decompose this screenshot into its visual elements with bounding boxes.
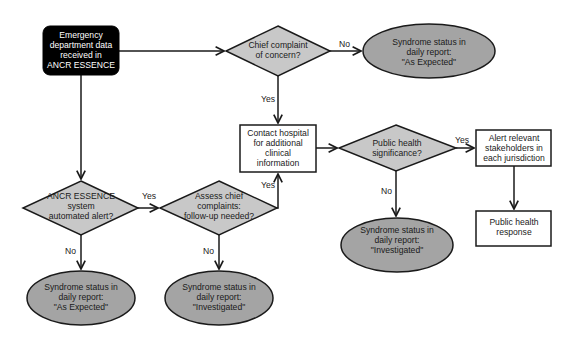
node-chief-complaint-line-1: Chief complaint <box>248 40 308 50</box>
node-contact-hospital-line-2: for additional <box>253 138 302 148</box>
node-contact-hospital-line-3: clinical <box>265 148 291 158</box>
node-start-line-3: received in <box>60 50 102 60</box>
node-status-investigated-right-line-3: "Investigated" <box>371 245 423 255</box>
node-status-expected-top-line-1: Syndrome status in <box>392 37 466 47</box>
node-assess-complaints-line-3: follow-up needed? <box>184 211 254 221</box>
edge-label-chief-no: No <box>339 39 350 49</box>
node-assess-complaints-line-1: Assess chief <box>195 191 244 201</box>
node-contact-hospital-line-1: Contact hospital <box>247 128 309 138</box>
node-alert-stakeholders-line-3: each jurisdiction <box>483 153 545 163</box>
edge-label-chief-yes: Yes <box>261 94 275 104</box>
node-start: Emergency department data received in AN… <box>43 26 119 75</box>
node-status-investigated-right: Syndrome status in daily report: "Invest… <box>341 218 453 272</box>
node-public-health-response: Public health response <box>476 211 551 246</box>
node-alert-stakeholders-line-2: stakeholders in <box>485 143 543 153</box>
edge-label-assess-no: No <box>203 246 214 256</box>
node-contact-hospital-line-4: information <box>257 158 300 168</box>
edge-label-assess-yes: Yes <box>261 180 275 190</box>
node-status-investigated-bottom-line-1: Syndrome status in <box>182 282 256 292</box>
node-status-expected-bottom-line-2: daily report: <box>59 292 104 302</box>
node-assess-complaints-line-2: complaints: <box>197 201 240 211</box>
node-contact-hospital: Contact hospital for additional clinical… <box>240 125 316 172</box>
node-status-expected-bottom: Syndrome status in daily report: "As Exp… <box>27 271 135 325</box>
node-status-expected-bottom-line-1: Syndrome status in <box>44 282 118 292</box>
edge-label-alert-no: No <box>65 246 76 256</box>
node-status-investigated-bottom-line-2: daily report: <box>197 292 242 302</box>
surveillance-flowchart: No Yes Yes No Yes No Yes No Emergency de… <box>0 0 573 343</box>
node-status-investigated-right-line-2: daily report: <box>375 235 420 245</box>
node-automated-alert-line-2: system <box>67 201 94 211</box>
node-public-health-response-line-2: response <box>496 227 532 237</box>
node-status-expected-top-line-2: daily report: <box>407 47 452 57</box>
node-automated-alert-line-3: automated alert? <box>49 211 114 221</box>
edge-label-alert-yes: Yes <box>142 191 156 201</box>
node-status-investigated-right-line-1: Syndrome status in <box>360 225 434 235</box>
edge-label-public-no: No <box>381 186 392 196</box>
node-public-health-response-line-1: Public health <box>489 217 538 227</box>
node-status-expected-top-line-3: "As Expected" <box>402 57 456 67</box>
node-status-investigated-bottom-line-3: "Investigated" <box>193 302 245 312</box>
node-chief-complaint: Chief complaint of concern? <box>226 26 330 76</box>
node-chief-complaint-line-2: of concern? <box>256 50 301 60</box>
node-assess-complaints: Assess chief complaints: follow-up neede… <box>160 181 277 235</box>
node-alert-stakeholders: Alert relevant stakeholders in each juri… <box>476 130 551 166</box>
edge-assess-yes <box>277 174 278 208</box>
node-status-expected-top: Syndrome status in daily report: "As Exp… <box>363 24 495 78</box>
node-public-health-line-2: significance? <box>372 148 422 158</box>
node-automated-alert-line-1: ANCR ESSENCE <box>47 191 115 201</box>
node-status-expected-bottom-line-3: "As Expected" <box>54 302 108 312</box>
node-public-health-line-1: Public health <box>372 138 421 148</box>
node-start-line-2: department data <box>50 40 113 50</box>
node-public-health-significance: Public health significance? <box>339 125 456 171</box>
node-start-line-4: ANCR ESSENCE <box>47 60 115 70</box>
node-status-investigated-bottom: Syndrome status in daily report: "Invest… <box>165 271 273 325</box>
node-start-line-1: Emergency <box>59 30 103 40</box>
node-alert-stakeholders-line-1: Alert relevant <box>489 133 540 143</box>
node-automated-alert: ANCR ESSENCE system automated alert? <box>23 181 138 235</box>
edge-label-public-yes: Yes <box>455 135 469 145</box>
